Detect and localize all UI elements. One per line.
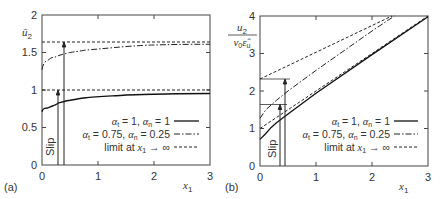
panel-a: 0 1 2 3 0 0.5 1 1.5 2 ū2 x1 (a)	[4, 9, 213, 194]
x-axis-label-a: x1	[182, 179, 193, 194]
x-tick-labels-b: 0 1 2 3	[257, 171, 431, 183]
curve-dashdot-b	[260, 16, 394, 118]
legend-item-1-a: αt = 1, αn = 1	[112, 115, 170, 128]
y-axis-label-a: ū2	[22, 26, 33, 41]
x-tick-0: 0	[39, 170, 45, 182]
y-tick-0: 0	[31, 159, 37, 171]
y-tick-2: 2	[249, 85, 255, 97]
x-tick-1: 1	[313, 171, 319, 183]
x-axis-label-b: x1	[398, 180, 409, 195]
legend-item-2-b: αt = 0.75, αn = 0.25	[302, 128, 390, 141]
y-tick-2: 2	[31, 9, 37, 21]
y-tick-4: 4	[249, 10, 255, 22]
slip-label-a: Slip	[44, 138, 56, 156]
legend-a: αt = 1, αn = 1 αt = 0.75, αn = 0.25 limi…	[82, 115, 199, 154]
panel-b: 0 1 2 3 0 1 2 3 4 u2 v0ε̂u x1 (b)	[225, 10, 431, 195]
y-tick-0: 0	[249, 160, 255, 172]
legend-item-3-a: limit at x1 → ∞	[104, 141, 170, 154]
x-tick-3: 3	[207, 170, 213, 182]
slip-indicator-b	[278, 79, 286, 166]
panel-tag-b: (b)	[225, 181, 238, 193]
svg-text:v0ε̂u: v0ε̂u	[233, 36, 251, 49]
slip-label-b: Slip	[266, 140, 278, 158]
legend-item-3-b: limit at x1 → ∞	[324, 141, 390, 154]
svg-text:u2: u2	[237, 21, 248, 36]
x-tick-0: 0	[257, 171, 263, 183]
x-tick-2: 2	[151, 170, 157, 182]
legend-item-2-a: αt = 0.75, αn = 0.25	[82, 128, 170, 141]
y-tick-1: 1	[31, 84, 37, 96]
legend-item-1-b: αt = 1, αn = 1	[332, 115, 390, 128]
slip-indicator-a	[56, 42, 65, 165]
panel-tag-a: (a)	[4, 181, 17, 193]
x-tick-1: 1	[95, 170, 101, 182]
limit-line-upper-b	[260, 16, 392, 79]
y-tick-0.5: 0.5	[22, 121, 37, 133]
legend-b: αt = 1, αn = 1 αt = 0.75, αn = 0.25 limi…	[302, 115, 418, 154]
curve-dashdot-a	[42, 44, 210, 70]
y-tick-labels-b: 0 1 2 3 4	[249, 10, 255, 172]
y-axis-label-b: u2 v0ε̂u	[228, 21, 257, 49]
x-tick-2: 2	[369, 171, 375, 183]
y-tick-1.5: 1.5	[22, 46, 37, 58]
curve-solid-a	[42, 94, 210, 112]
x-tick-3: 3	[425, 171, 431, 183]
figure: 0 1 2 3 0 0.5 1 1.5 2 ū2 x1 (a)	[0, 0, 445, 199]
y-tick-1: 1	[249, 122, 255, 134]
